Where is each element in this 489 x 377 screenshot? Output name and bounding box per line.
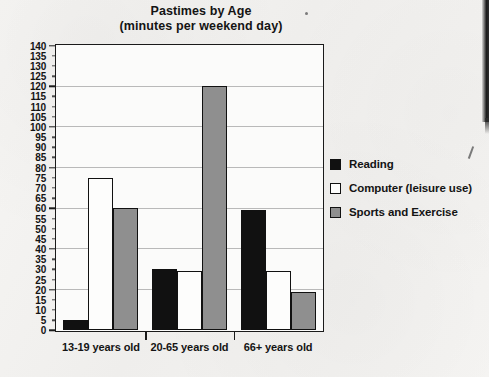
chart-title-line-2: (minutes per weekend day): [60, 19, 342, 34]
gridlines: [56, 45, 323, 331]
chart-legend: ReadingComputer (leisure use)Sports and …: [330, 152, 480, 224]
gridline: [56, 167, 323, 168]
chart-title-line-1: Pastimes by Age: [60, 4, 342, 19]
x-axis-category-label: 66+ years old: [244, 341, 313, 353]
legend-item-label: Computer (leisure use): [349, 182, 472, 194]
y-axis: 1401351301251201151101051009590858075706…: [0, 44, 55, 332]
x-axis: 13-19 years old20-65 years old66+ years …: [55, 332, 324, 362]
x-axis-category-label: 13-19 years old: [62, 341, 140, 353]
plot-area: [55, 44, 324, 332]
legend-item-label: Sports and Exercise: [349, 206, 458, 218]
chart-page: Pastimes by Age (minutes per weekend day…: [0, 0, 489, 377]
legend-item-label: Reading: [349, 158, 394, 170]
gridline: [56, 126, 323, 127]
legend-swatch-icon: [330, 183, 341, 194]
page-edge-shadow-lower: [485, 118, 489, 134]
legend-item: Computer (leisure use): [330, 176, 480, 200]
page-edge-shadow: [482, 0, 489, 122]
chart-title: Pastimes by Age (minutes per weekend day…: [60, 4, 342, 34]
x-axis-separator: [234, 332, 235, 340]
gridline: [56, 248, 323, 249]
gridline: [56, 86, 323, 87]
y-axis-tick-label: 0: [41, 325, 46, 336]
legend-swatch-icon: [330, 159, 341, 170]
x-axis-category-label: 20-65 years old: [151, 341, 229, 353]
gridline: [56, 208, 323, 209]
x-axis-separator: [145, 332, 146, 340]
legend-item: Sports and Exercise: [330, 200, 480, 224]
legend-swatch-icon: [330, 207, 341, 218]
gridline: [56, 289, 323, 290]
legend-item: Reading: [330, 152, 480, 176]
